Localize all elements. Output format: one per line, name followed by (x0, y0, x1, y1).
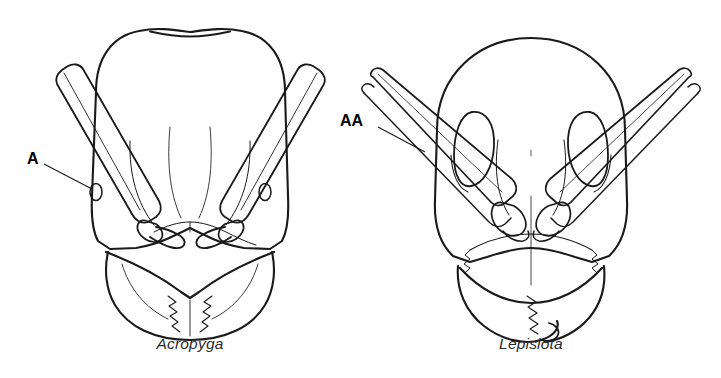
figure-panel: A AA Acropyga Lepisiota (0, 0, 721, 378)
caption-acropyga: Acropyga (156, 335, 223, 353)
annotation-label-a: A (27, 150, 39, 168)
annotation-label-aa: AA (340, 112, 363, 130)
caption-lepisiota: Lepisiota (499, 335, 563, 353)
figure-background (0, 0, 721, 378)
ant-head-comparison-illustration (0, 0, 721, 378)
